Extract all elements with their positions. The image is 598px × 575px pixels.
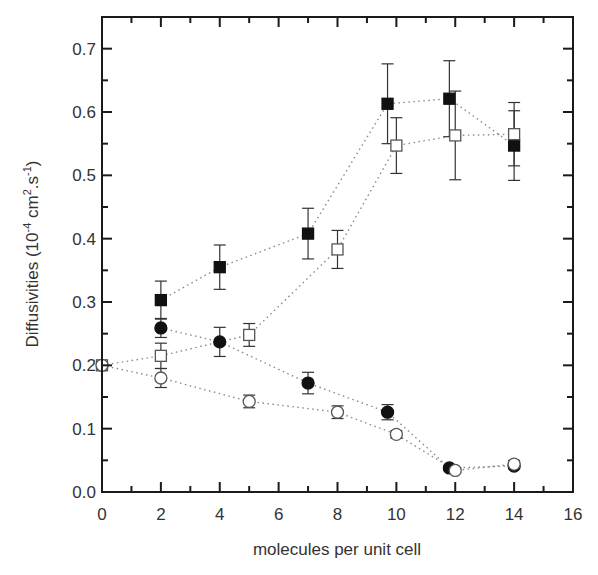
data-point-open-squares [332,244,343,255]
y-tick-label: 0.3 [72,293,96,312]
x-tick-label: 14 [505,505,524,524]
y-tick-label: 0.2 [72,356,96,375]
y-tick-label: 0.7 [72,40,96,59]
y-tick-label: 0.6 [72,103,96,122]
series-line-filled-circles [161,328,514,468]
y-axis-title-mid2: .s [23,176,42,189]
y-tick-label: 0.4 [72,230,96,249]
y-tick-label: 0.5 [72,166,96,185]
diffusivity-chart: 0246810121416 0.00.10.20.30.40.50.60.7 m… [0,0,598,575]
x-axis-title: molecules per unit cell [253,540,421,559]
x-tick-label: 8 [333,505,342,524]
y-axis-title-exp3: -1 [21,166,33,176]
x-tick-label: 6 [274,505,283,524]
y-axis-title: Diffusivities (10-4 cm2.s-1) [21,161,42,348]
data-point-filled-squares [155,295,166,306]
data-point-filled-squares [509,140,520,151]
x-tick-label: 10 [387,505,406,524]
data-point-filled-circles [302,377,314,389]
data-point-filled-circles [382,406,394,418]
data-point-open-circles [332,406,344,418]
data-point-filled-squares [303,228,314,239]
data-point-filled-circles [155,322,167,334]
data-point-open-circles [449,464,461,476]
data-point-open-circles [243,395,255,407]
x-tick-labels: 0246810121416 [97,505,582,524]
data-point-open-squares [509,129,520,140]
x-tick-label: 16 [564,505,583,524]
y-axis-title-exp1: -4 [21,223,33,233]
data-point-filled-circles [214,336,226,348]
y-tick-labels: 0.00.10.20.30.40.50.60.7 [72,40,96,502]
y-axis-title-end: ) [23,161,42,167]
connector-lines [102,99,514,471]
data-point-open-squares [450,130,461,141]
y-axis-title-base: Diffusivities (10 [23,233,42,348]
y-axis-title-mid: cm [23,195,42,222]
data-point-open-squares [155,350,166,361]
y-tick-label: 0.1 [72,420,96,439]
data-point-open-circles [390,428,402,440]
data-point-filled-squares [214,262,225,273]
data-point-open-squares [391,140,402,151]
data-point-filled-squares [382,98,393,109]
x-tick-label: 0 [97,505,106,524]
data-point-open-circles [155,372,167,384]
x-tick-label: 12 [446,505,465,524]
data-point-open-circles [508,458,520,470]
data-markers [96,93,520,476]
x-tick-label: 4 [215,505,224,524]
data-point-open-squares [244,329,255,340]
data-point-filled-squares [444,93,455,104]
x-tick-label: 2 [156,505,165,524]
y-tick-label: 0.0 [72,483,96,502]
